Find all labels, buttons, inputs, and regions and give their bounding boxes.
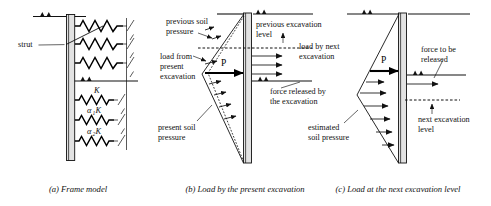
present-soil-pressure-envelope (208, 16, 244, 160)
svg-text:K: K (95, 127, 102, 136)
caption-panel-c: (c) Load at the next excavation level (335, 184, 461, 194)
previous-soil-pressure-leader (198, 33, 212, 38)
load-from-present-excavation-line3: excavation (160, 72, 195, 81)
load-by-next-excavation-line1: load by next (299, 42, 340, 51)
retaining-wall (67, 15, 75, 161)
estimated-soil-pressure-envelope (357, 14, 399, 163)
panel-load-present-excavation: P (158, 10, 340, 194)
previous-excavation-level-line2: level (256, 30, 273, 39)
estimated-soil-pressure-leader (344, 110, 358, 123)
panel-c-resultant-force-label-P: P (381, 55, 386, 65)
previous-soil-pressure-label-line1: previous soil (166, 17, 209, 26)
panel-b-wall (244, 13, 252, 163)
svg-text:α: α (87, 106, 92, 115)
panel-b-lower-hatch (258, 77, 268, 81)
estimated-soil-pressure-line2: soil pressure (308, 133, 350, 142)
load-from-present-excavation-leader (193, 56, 206, 61)
spring-label-alpha1-k: α 1 K (87, 106, 102, 116)
present-soil-pressure-leader (197, 105, 212, 121)
previous-pressure-arrows (205, 27, 221, 39)
load-from-present-excavation-line1: load from (160, 52, 193, 61)
panel-load-next-excavation: P estimated s (308, 10, 470, 194)
spring-upper-1 (75, 21, 127, 32)
next-excavation-level-line2: level (418, 125, 435, 134)
excavation-hatch-symbol (81, 76, 92, 81)
panel-c-wall (399, 13, 407, 163)
spring-label-alpha2-k: α 2 K (87, 127, 102, 137)
support-hatching (118, 20, 134, 146)
force-to-be-released-line1: force to be (421, 45, 456, 54)
force-released-line1: force released by (270, 87, 327, 96)
next-excavation-level-line1: next excavation (418, 115, 470, 124)
caption-panel-a: (a) Frame model (49, 184, 108, 194)
panel-c-release-hatch (413, 71, 423, 75)
caption-panel-b: (b) Load by the present excavation (185, 184, 304, 194)
panel-c-ground-hatch (362, 10, 372, 14)
spring-lower-k (75, 96, 118, 105)
released-force-arrows (252, 56, 282, 74)
previous-excavation-level-line1: previous excavation (256, 20, 322, 29)
present-soil-pressure-line1: present soil (158, 123, 196, 132)
resultant-force-label-P: P (221, 58, 226, 68)
load-by-next-excavation-line2: excavation (299, 52, 334, 61)
panel-b-ground-hatch (256, 10, 266, 14)
force-released-line2: the excavation (270, 97, 318, 106)
spring-label-k: K (93, 86, 100, 95)
spring-upper-2 (75, 39, 127, 50)
svg-text:K: K (95, 106, 102, 115)
load-from-present-excavation-line2: present (160, 62, 184, 71)
panel-c-pressure-arrows (360, 82, 394, 145)
ground-hatch-symbol (40, 12, 51, 17)
spring-upper-3 (75, 58, 127, 69)
spring-lower-a2k (75, 137, 118, 146)
force-to-be-released-line2: released (421, 55, 448, 64)
figure-container: strut K (0, 0, 491, 206)
panel-frame-model: strut K (18, 12, 138, 194)
svg-text:α: α (87, 127, 92, 136)
previous-soil-pressure-label-line2: pressure (166, 27, 194, 36)
present-soil-pressure-line2: pressure (158, 133, 186, 142)
estimated-soil-pressure-line1: estimated (308, 123, 339, 132)
strut-label: strut (18, 40, 33, 49)
spring-lower-a1k (75, 116, 118, 125)
